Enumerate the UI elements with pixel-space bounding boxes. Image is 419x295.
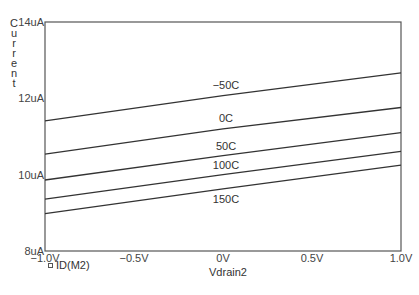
legend-item-id-m2: ID(M2) bbox=[56, 259, 90, 271]
curve-label: 150C bbox=[213, 193, 239, 205]
y-tick-label: 10uA bbox=[18, 169, 44, 181]
chart-canvas: −50C0C50C100C150C −1.0V−0.5V0V0.5V1.0V 8… bbox=[0, 0, 419, 295]
curve-label: −50C bbox=[213, 79, 240, 91]
y-tick-label: 14uA bbox=[18, 16, 44, 28]
curve-label: 0C bbox=[219, 112, 233, 124]
y-axis-label: Current bbox=[10, 17, 18, 89]
curve-label: 100C bbox=[213, 159, 239, 171]
x-tick-label: 1.0V bbox=[390, 252, 413, 264]
plot-frame bbox=[45, 22, 401, 251]
y-label-char: t bbox=[12, 77, 15, 89]
y-axis-ticks: 8uA10uA12uA14uA bbox=[18, 16, 44, 257]
x-tick-label: −0.5V bbox=[119, 252, 149, 264]
x-tick-label: 0.5V bbox=[301, 252, 324, 264]
x-tick-label: 0V bbox=[216, 252, 230, 264]
x-axis-label: Vdrain2 bbox=[209, 266, 247, 278]
legend-marker-square-icon bbox=[49, 264, 53, 268]
y-tick-label: 12uA bbox=[18, 92, 44, 104]
y-tick-label: 8uA bbox=[24, 245, 44, 257]
curve-label: 50C bbox=[216, 140, 236, 152]
plot-border bbox=[45, 22, 401, 251]
